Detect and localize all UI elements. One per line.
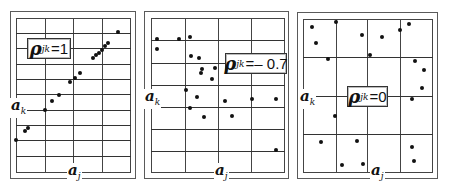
data-point <box>422 68 426 72</box>
data-point <box>410 97 414 101</box>
grid-line-vertical <box>185 18 186 172</box>
data-point <box>188 35 192 39</box>
rho-symbol: ρ <box>30 38 42 59</box>
data-point <box>355 139 359 143</box>
axis-symbol: a <box>68 161 78 179</box>
data-point <box>50 99 54 103</box>
grid-line-horizontal <box>303 57 433 58</box>
data-point <box>274 97 278 101</box>
grid-line-vertical <box>218 18 219 172</box>
rho-subscript: jk <box>360 92 368 102</box>
data-point <box>199 71 203 75</box>
data-point <box>398 28 402 32</box>
data-point <box>380 35 384 39</box>
correlation-label: ρjk=– 0.7 <box>225 53 287 74</box>
rho-subscript: jk <box>236 59 244 69</box>
data-point <box>319 140 323 144</box>
y-axis-label: ak <box>299 89 316 109</box>
data-point <box>189 54 193 58</box>
grid-line-horizontal <box>151 107 285 108</box>
data-point <box>155 37 159 41</box>
equals-sign: = <box>370 88 379 105</box>
data-point <box>274 148 278 152</box>
data-point <box>410 145 414 149</box>
axis-subscript: k <box>21 106 26 116</box>
correlation-value: – 0.7 <box>254 55 287 72</box>
data-point <box>420 86 424 90</box>
axis-symbol: a <box>11 96 21 114</box>
grid-line-horizontal <box>151 40 285 41</box>
correlation-value: 0 <box>378 88 386 105</box>
data-point <box>412 159 416 163</box>
data-point <box>26 126 30 130</box>
grid-line-horizontal <box>16 140 131 141</box>
data-point <box>177 37 181 41</box>
grid-line-vertical <box>102 18 103 172</box>
data-point <box>195 95 199 99</box>
data-point <box>116 30 120 34</box>
data-point <box>100 48 104 52</box>
grid-line-vertical <box>73 18 74 172</box>
rho-symbol: ρ <box>224 53 236 74</box>
grid-line-horizontal <box>16 110 131 111</box>
axis-subscript: j <box>381 171 384 181</box>
rho-symbol: ρ <box>348 86 360 107</box>
data-point <box>361 162 365 166</box>
data-point <box>360 33 364 37</box>
rho-subscript: jk <box>42 44 50 54</box>
data-point <box>334 20 338 24</box>
data-point <box>250 97 254 101</box>
x-axis-label: aj <box>370 163 385 183</box>
axis-symbol: a <box>300 87 310 105</box>
data-point <box>14 138 18 142</box>
grid-line-horizontal <box>16 125 131 126</box>
x-axis-label: aj <box>214 163 229 183</box>
grid-line-horizontal <box>16 94 131 95</box>
data-point <box>333 114 337 118</box>
axis-symbol: a <box>215 161 225 179</box>
data-point <box>413 59 417 63</box>
axis-subscript: j <box>78 171 81 181</box>
data-point <box>310 25 314 29</box>
data-point <box>230 114 234 118</box>
data-point <box>368 53 372 57</box>
x-axis-label: aj <box>67 163 82 183</box>
data-point <box>210 77 214 81</box>
data-point <box>223 99 227 103</box>
data-point <box>155 47 159 51</box>
axis-symbol: a <box>371 161 381 179</box>
data-point <box>188 106 192 110</box>
y-axis-label: ak <box>10 98 27 118</box>
correlation-value: 1 <box>60 40 68 57</box>
data-point <box>184 88 188 92</box>
correlation-label: ρjk=1 <box>27 38 71 59</box>
data-point <box>78 71 82 75</box>
grid-line-horizontal <box>151 85 285 86</box>
data-point <box>68 80 72 84</box>
grid-line-horizontal <box>16 33 131 34</box>
data-point <box>43 108 47 112</box>
axis-subscript: k <box>310 97 315 107</box>
data-point <box>73 76 77 80</box>
grid-line-vertical <box>251 18 252 172</box>
grid-line-horizontal <box>151 151 285 152</box>
grid-line-horizontal <box>16 156 131 157</box>
data-point <box>197 56 201 60</box>
y-axis-label: ak <box>144 89 161 109</box>
data-point <box>340 163 344 167</box>
data-point <box>326 57 330 61</box>
equals-sign: = <box>51 40 60 57</box>
axis-symbol: a <box>145 87 155 105</box>
correlation-label: ρjk=0 <box>347 86 388 107</box>
axis-subscript: k <box>155 97 160 107</box>
data-point <box>213 66 217 70</box>
data-point <box>314 41 318 45</box>
data-point <box>106 41 110 45</box>
data-point <box>407 22 411 26</box>
data-point <box>57 93 61 97</box>
data-point <box>202 115 206 119</box>
grid-line-horizontal <box>151 129 285 130</box>
grid-line-horizontal <box>16 64 131 65</box>
axis-subscript: j <box>225 171 228 181</box>
grid-line-horizontal <box>303 134 433 135</box>
